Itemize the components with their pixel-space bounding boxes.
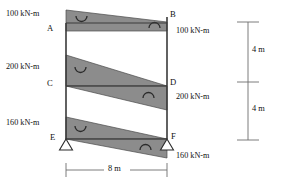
- moment-fill-cd-lower: [66, 86, 167, 110]
- node-label-e: E: [50, 133, 55, 142]
- node-label-f: F: [171, 132, 176, 141]
- dimension-label-story-upper: 4 m: [252, 46, 265, 54]
- node-label-d: D: [170, 78, 176, 87]
- node-label-a: A: [47, 24, 53, 33]
- moment-label-f: 160 kN-m: [176, 152, 209, 160]
- node-label-c: C: [47, 79, 53, 88]
- dimension-label-story-lower: 4 m: [252, 105, 265, 113]
- moment-label-a: 100 kN-m: [6, 10, 39, 18]
- moment-diagram-beam-cd: [66, 55, 167, 110]
- dimension-label-span: 8 m: [108, 165, 121, 173]
- moment-label-e: 160 kN-m: [6, 119, 39, 127]
- support-pin-e: [60, 139, 73, 150]
- dimension-vertical: [237, 22, 259, 140]
- node-label-b: B: [170, 10, 176, 19]
- moment-diagram-beam-ef: [66, 117, 167, 158]
- moment-fill-ef-lower: [66, 139, 167, 158]
- moment-fill-ef-upper: [66, 117, 167, 139]
- moment-fill-cd-upper: [66, 55, 167, 86]
- moment-label-c: 200 kN-m: [6, 63, 39, 71]
- figure-canvas: 100 kN-m A B 100 kN-m 200 kN-m C D 200 k…: [0, 0, 285, 189]
- moment-label-d: 200 kN-m: [176, 93, 209, 101]
- moment-label-b: 100 kN-m: [176, 27, 209, 35]
- frame-bending-moment-svg: [0, 0, 285, 189]
- moment-fill-ab: [66, 10, 167, 31]
- moment-diagram-beam-ab: [66, 10, 167, 31]
